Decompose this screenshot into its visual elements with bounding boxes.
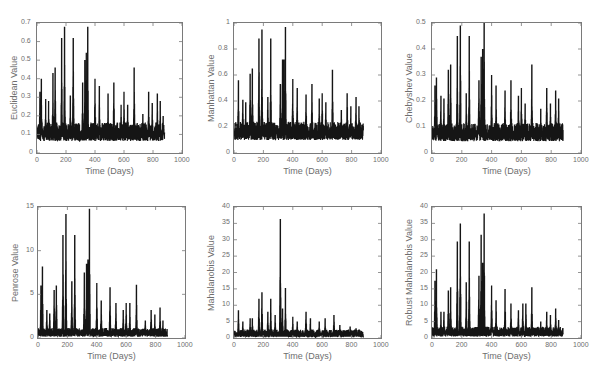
x-tick-label: 1000 bbox=[174, 156, 190, 163]
x-tick-label: 600 bbox=[316, 156, 328, 163]
x-tick-label: 0 bbox=[35, 156, 39, 163]
y-tick-label: 0 bbox=[30, 333, 34, 340]
x-axis-label: Time (Days) bbox=[37, 351, 187, 361]
y-tick-label: 40 bbox=[420, 202, 428, 209]
x-tick-label: 1000 bbox=[373, 156, 389, 163]
x-axis-label: Time (Days) bbox=[233, 166, 383, 176]
y-tick-label: 10 bbox=[222, 300, 230, 307]
x-tick-label: 800 bbox=[346, 341, 358, 348]
x-tick-label: 600 bbox=[120, 341, 132, 348]
y-tick-label: 0.1 bbox=[416, 122, 426, 129]
line-series bbox=[234, 23, 381, 153]
y-tick-label: 20 bbox=[420, 268, 428, 275]
x-tick-label: 600 bbox=[515, 156, 527, 163]
x-tick-label: 800 bbox=[150, 341, 162, 348]
x-tick-label: 1000 bbox=[177, 341, 193, 348]
y-tick-label: 0.4 bbox=[21, 74, 31, 81]
y-tick-label: 40 bbox=[222, 202, 230, 209]
x-tick-label: 0 bbox=[232, 341, 236, 348]
y-tick-label: 0 bbox=[226, 148, 230, 155]
y-tick-label: 0.8 bbox=[218, 44, 228, 51]
line-series bbox=[38, 207, 185, 338]
line-series bbox=[37, 23, 182, 153]
y-tick-label: 35 bbox=[222, 218, 230, 225]
x-tick-label: 1000 bbox=[573, 341, 589, 348]
plot-area bbox=[431, 206, 582, 339]
y-tick-label: 15 bbox=[420, 284, 428, 291]
y-tick-label: 15 bbox=[26, 202, 34, 209]
y-tick-label: 30 bbox=[222, 235, 230, 242]
x-tick-label: 0 bbox=[36, 341, 40, 348]
x-tick-label: 400 bbox=[486, 341, 498, 348]
y-axis-label: Euclidean Value bbox=[9, 56, 19, 120]
x-tick-label: 200 bbox=[60, 156, 72, 163]
y-tick-label: 0 bbox=[424, 148, 428, 155]
y-axis-label: Chebyshev Value bbox=[404, 53, 414, 123]
line-series bbox=[432, 23, 581, 153]
x-tick-label: 400 bbox=[287, 156, 299, 163]
x-tick-label: 0 bbox=[232, 156, 236, 163]
line-series bbox=[432, 207, 581, 338]
y-tick-label: 0.5 bbox=[416, 18, 426, 25]
y-tick-label: 0.5 bbox=[21, 55, 31, 62]
y-tick-label: 0.4 bbox=[416, 44, 426, 51]
x-tick-label: 0 bbox=[430, 156, 434, 163]
y-tick-label: 5 bbox=[424, 317, 428, 324]
x-tick-label: 600 bbox=[118, 156, 130, 163]
y-tick-label: 10 bbox=[26, 246, 34, 253]
y-tick-label: 30 bbox=[420, 235, 428, 242]
x-tick-label: 1000 bbox=[573, 156, 589, 163]
y-tick-label: 15 bbox=[222, 284, 230, 291]
y-tick-label: 0.2 bbox=[218, 122, 228, 129]
y-tick-label: 0.7 bbox=[21, 18, 31, 25]
plot-area bbox=[233, 206, 382, 339]
y-tick-label: 25 bbox=[222, 251, 230, 258]
y-tick-label: 20 bbox=[222, 268, 230, 275]
y-tick-label: 35 bbox=[420, 218, 428, 225]
x-tick-label: 800 bbox=[147, 156, 159, 163]
x-axis-label: Time (Days) bbox=[432, 351, 582, 361]
x-tick-label: 200 bbox=[257, 341, 269, 348]
y-tick-label: 0.3 bbox=[416, 70, 426, 77]
y-tick-label: 0 bbox=[424, 333, 428, 340]
y-tick-label: 10 bbox=[420, 300, 428, 307]
y-axis-label: Mahalanobis Value bbox=[206, 235, 216, 311]
x-tick-label: 400 bbox=[89, 156, 101, 163]
x-tick-label: 800 bbox=[545, 156, 557, 163]
y-tick-label: 0.2 bbox=[416, 96, 426, 103]
y-tick-label: 0.3 bbox=[21, 92, 31, 99]
x-tick-label: 400 bbox=[91, 341, 103, 348]
plot-area bbox=[36, 22, 183, 154]
x-axis-label: Time (Days) bbox=[35, 166, 185, 176]
y-tick-label: 0 bbox=[226, 333, 230, 340]
x-tick-label: 600 bbox=[316, 341, 328, 348]
x-tick-label: 200 bbox=[456, 341, 468, 348]
x-tick-label: 800 bbox=[346, 156, 358, 163]
y-tick-label: 25 bbox=[420, 251, 428, 258]
x-axis-label: Time (Days) bbox=[233, 351, 383, 361]
y-tick-label: 5 bbox=[30, 289, 34, 296]
x-tick-label: 0 bbox=[430, 341, 434, 348]
y-tick-label: 0.1 bbox=[21, 129, 31, 136]
x-tick-label: 200 bbox=[61, 341, 73, 348]
y-tick-label: 0 bbox=[29, 148, 33, 155]
y-tick-label: 0.6 bbox=[218, 70, 228, 77]
x-tick-label: 800 bbox=[545, 341, 557, 348]
y-tick-label: 0.6 bbox=[21, 37, 31, 44]
y-tick-label: 0.4 bbox=[218, 96, 228, 103]
plot-area bbox=[233, 22, 382, 154]
y-axis-label: Manhattan Value bbox=[206, 54, 216, 121]
y-tick-label: 0.2 bbox=[21, 111, 31, 118]
x-tick-label: 200 bbox=[257, 156, 269, 163]
x-tick-label: 1000 bbox=[373, 341, 389, 348]
plot-area bbox=[431, 22, 582, 154]
line-series bbox=[234, 207, 381, 338]
y-tick-label: 1 bbox=[226, 18, 230, 25]
x-tick-label: 400 bbox=[486, 156, 498, 163]
x-tick-label: 400 bbox=[287, 341, 299, 348]
plot-area bbox=[37, 206, 186, 339]
x-tick-label: 200 bbox=[456, 156, 468, 163]
x-tick-label: 600 bbox=[515, 341, 527, 348]
y-axis-label: Penrose Value bbox=[10, 243, 20, 301]
y-tick-label: 5 bbox=[226, 317, 230, 324]
